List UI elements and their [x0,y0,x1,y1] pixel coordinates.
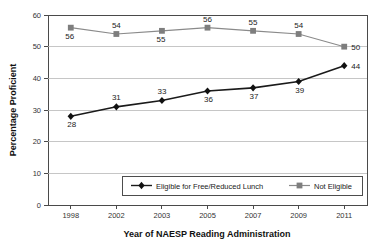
data-point-marker[interactable] [341,44,347,50]
data-label: 54 [294,21,303,30]
legend-square-icon [297,183,303,189]
chart-container: 0102030405060 19982002200320052007200920… [0,0,392,246]
data-label: 33 [157,87,166,96]
data-label: 55 [249,18,258,27]
x-tick-label: 2005 [199,211,216,220]
legend-label-not-eligible: Not Eligible [314,182,352,191]
data-label: 36 [204,95,213,104]
y-tick-label: 10 [33,169,41,178]
x-tick-label: 2007 [245,211,262,220]
x-tick-label: 2002 [108,211,125,220]
data-label: 39 [295,86,304,95]
data-label: 31 [112,93,121,102]
x-tick-label: 2003 [154,211,171,220]
x-tick-label: 2011 [336,211,352,220]
data-label: 28 [67,120,76,129]
data-point-marker[interactable] [68,25,74,31]
data-label: 55 [156,35,165,44]
line-chart: 0102030405060 19982002200320052007200920… [0,0,392,246]
y-tick-label: 60 [33,11,41,20]
x-tick-label: 2009 [290,211,307,220]
data-point-marker[interactable] [159,28,165,34]
x-axis-title: Year of NAESP Reading Administration [123,229,290,239]
legend-label-eligible: Eligible for Free/Reduced Lunch [156,182,263,191]
y-tick-label: 30 [33,106,41,115]
data-label: 50 [351,43,360,52]
data-label: 56 [65,32,74,41]
data-label: 37 [250,92,259,101]
y-tick-label: 0 [37,201,41,210]
x-tick-label: 1998 [62,211,79,220]
data-point-marker[interactable] [113,31,119,37]
y-axis-title: Percentage Proficient [8,64,18,157]
data-point-marker[interactable] [250,28,256,34]
data-point-marker[interactable] [296,31,302,37]
chart-legend: Eligible for Free/Reduced Lunch Not Elig… [122,176,362,195]
data-label: 44 [351,62,360,71]
data-point-marker[interactable] [205,25,211,31]
y-tick-label: 20 [33,137,41,146]
y-tick-label: 40 [33,74,41,83]
data-label: 54 [112,21,121,30]
data-label: 56 [203,15,212,24]
y-tick-label: 50 [33,42,41,51]
